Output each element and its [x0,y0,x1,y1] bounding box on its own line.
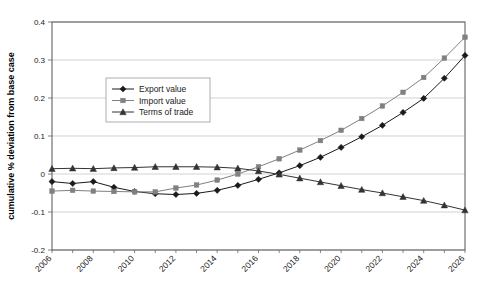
data-point-marker-square [91,189,96,194]
data-point-marker-diamond [214,187,220,193]
y-axis-tick-labels: 0.40.30.20.10-0.1-0.2 [31,18,45,255]
data-point-marker-square [215,178,220,183]
data-point-marker-square [236,172,241,177]
x-tick-label: 2026 [446,253,467,274]
data-point-marker-diamond [379,122,385,128]
data-point-marker-diamond [297,163,303,169]
x-tick-label: 2014 [198,253,219,274]
data-point-marker-square [442,56,447,61]
data-point-marker-diamond [359,134,365,140]
x-axis-tick-labels: 2006200820102012201420162018202020222024… [33,253,467,274]
data-point-marker-diamond [49,179,55,185]
data-point-marker-square [70,188,75,193]
data-point-marker-square [298,148,303,153]
y-tick-label: -0.2 [31,246,45,255]
data-point-marker-square [132,190,137,195]
y-axis-title-text: cumulative % deviation from base case [6,52,16,220]
data-point-marker-diamond [90,179,96,185]
y-axis-ticks [48,22,52,250]
data-point-marker-diamond [193,190,199,196]
y-tick-label: 0.1 [34,132,46,141]
data-point-marker-diamond [70,180,76,186]
x-tick-label: 2022 [363,253,384,274]
series-export-value [49,52,468,197]
data-point-marker-square [463,35,468,40]
x-axis-ticks [52,250,465,253]
data-point-marker-diamond [255,176,261,182]
data-point-marker-square [112,189,117,194]
x-tick-label: 2008 [74,253,95,274]
x-tick-label: 2012 [157,253,178,274]
data-series [49,35,468,213]
x-tick-label: 2024 [405,253,426,274]
data-point-marker-square [421,75,426,80]
data-point-marker-square [380,104,385,109]
y-tick-label: -0.1 [31,208,45,217]
data-point-marker-square [194,183,199,188]
y-tick-label: 0.2 [34,94,46,103]
x-tick-label: 2010 [116,253,137,274]
x-tick-label: 2018 [281,253,302,274]
chart-legend: Export valueImport valueTerms of trade [106,78,210,122]
grid-lines [52,22,465,250]
data-point-marker-square [121,98,126,103]
y-axis-title: cumulative % deviation from base case [6,52,16,220]
data-point-marker-diamond [400,109,406,115]
y-tick-label: 0.4 [34,18,46,27]
x-tick-label: 2020 [322,253,343,274]
data-point-marker-diamond [338,144,344,150]
data-point-marker-square [153,190,158,195]
data-point-marker-square [401,90,406,95]
data-point-marker-square [50,189,55,194]
data-point-marker-square [339,128,344,133]
legend-label: Import value [139,96,186,106]
legend-label: Export value [139,84,187,94]
data-point-marker-square [318,138,323,143]
x-tick-label: 2016 [239,253,260,274]
x-tick-label: 2006 [33,253,54,274]
data-point-marker-diamond [173,191,179,197]
data-point-marker-square [277,157,282,162]
legend-label: Terms of trade [139,107,194,117]
data-point-marker-diamond [317,154,323,160]
y-tick-label: 0.3 [34,56,46,65]
data-point-marker-diamond [235,182,241,188]
deviation-line-chart: 0.40.30.20.10-0.1-0.2 200620082010201220… [0,0,491,300]
data-point-marker-square [174,186,179,191]
y-tick-label: 0 [41,170,46,179]
data-point-marker-square [359,116,364,121]
chart-container: 0.40.30.20.10-0.1-0.2 200620082010201220… [0,0,491,300]
